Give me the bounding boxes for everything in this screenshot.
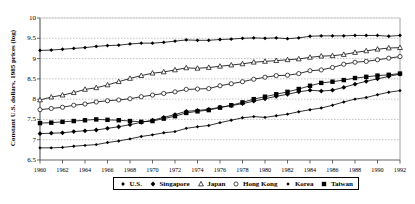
legend-marker [232,180,240,188]
legend-label: Singapore [159,180,189,188]
legend-marker-icon [284,180,292,188]
legend-label: Japan [207,180,225,188]
series-taiwan [38,71,402,125]
y-tick-label: 9.5 [14,34,36,42]
legend-marker-icon [149,180,157,188]
legend-item: Korea [284,180,313,188]
legend-marker-icon [197,180,205,188]
y-tick-label: 7.5 [14,115,36,123]
x-tick-label: 1992 [387,166,413,173]
y-tick-label: 10 [14,14,36,22]
y-tick-label: 6.5 [14,156,36,164]
legend-marker [149,180,157,188]
legend-marker [119,180,127,188]
legend-label: Hong Kong [243,180,277,188]
y-tick-label: 9 [14,55,36,63]
legend-label: Taiwan [331,180,353,188]
legend-marker-icon [232,180,240,188]
legend-marker [320,180,328,188]
legend-item: Hong Kong [232,180,277,188]
y-tick-label: 8 [14,95,36,103]
legend-label: U.S. [130,180,142,188]
chart-legend: U.S.SingaporeJapanHong KongKoreaTaiwan [113,177,359,190]
legend-item: U.S. [119,180,142,188]
y-tick-label: 7 [14,136,36,144]
y-tick-label: 8.5 [14,75,36,83]
legend-item: Japan [197,180,226,188]
legend-marker-icon [320,180,328,188]
series-u-s [38,34,402,53]
legend-item: Taiwan [320,180,352,188]
chart-container: Constant U.S. dollars, 1985 prices (log)… [0,0,415,204]
series-singapore [38,72,403,136]
legend-marker [284,180,292,188]
legend-marker [197,180,205,188]
legend-marker-icon [119,180,127,188]
legend-label: Korea [295,180,314,188]
series-japan [38,45,403,102]
legend-item: Singapore [149,180,190,188]
